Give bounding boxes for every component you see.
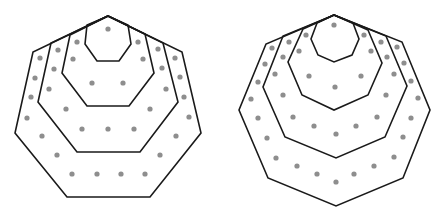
octagonal-figure — [239, 15, 430, 206]
dot — [39, 133, 44, 138]
dot — [159, 65, 164, 70]
dot — [28, 94, 33, 99]
dot — [181, 94, 186, 99]
dot — [351, 171, 356, 176]
figurate-numbers-diagram — [0, 0, 442, 215]
dot — [384, 54, 389, 59]
dot — [140, 56, 145, 61]
dot — [383, 92, 388, 97]
dot — [391, 154, 396, 159]
dot — [255, 115, 260, 120]
dot — [273, 155, 278, 160]
dot — [394, 44, 399, 49]
dot — [24, 115, 29, 120]
dot — [94, 171, 99, 176]
dot — [172, 55, 177, 60]
dot — [401, 60, 406, 65]
dot — [163, 86, 168, 91]
dot — [368, 48, 373, 53]
dot — [255, 79, 260, 84]
dot — [332, 84, 337, 89]
dot — [157, 152, 162, 157]
dot — [186, 114, 191, 119]
dot — [280, 54, 285, 59]
dot — [105, 26, 110, 31]
dot — [105, 126, 110, 131]
dot — [378, 39, 383, 44]
dot — [32, 75, 37, 80]
dot — [63, 106, 68, 111]
dot — [70, 56, 75, 61]
dot — [358, 73, 363, 78]
heptagonal-numbers-layer-3-outline — [38, 16, 178, 152]
dot — [408, 115, 413, 120]
dot — [311, 123, 316, 128]
dot — [296, 48, 301, 53]
dot — [306, 73, 311, 78]
dot — [333, 131, 338, 136]
dot — [272, 71, 277, 76]
dot — [314, 171, 319, 176]
dot — [361, 32, 366, 37]
dot — [400, 134, 405, 139]
dot — [290, 114, 295, 119]
dot — [371, 163, 376, 168]
dot — [286, 39, 291, 44]
dot — [303, 32, 308, 37]
dot — [89, 80, 94, 85]
dot — [294, 163, 299, 168]
dot — [147, 106, 152, 111]
dot — [262, 61, 267, 66]
dot — [177, 74, 182, 79]
dot — [333, 179, 338, 184]
dot — [142, 171, 147, 176]
dot — [269, 45, 274, 50]
dot — [54, 152, 59, 157]
dot — [37, 55, 42, 60]
dot — [51, 66, 56, 71]
dot — [173, 133, 178, 138]
dot — [331, 22, 336, 27]
dot — [69, 171, 74, 176]
dot — [131, 126, 136, 131]
dot — [280, 92, 285, 97]
dot — [118, 171, 123, 176]
dot — [408, 78, 413, 83]
dot — [74, 39, 79, 44]
heptagonal-figure — [15, 16, 201, 197]
dot — [46, 86, 51, 91]
dot — [264, 135, 269, 140]
dot — [353, 123, 358, 128]
dot — [120, 80, 125, 85]
dot — [55, 47, 60, 52]
dot — [155, 46, 160, 51]
dot — [79, 126, 84, 131]
dot — [415, 95, 420, 100]
dot — [248, 96, 253, 101]
dot — [135, 39, 140, 44]
dot — [374, 114, 379, 119]
dot — [391, 71, 396, 76]
